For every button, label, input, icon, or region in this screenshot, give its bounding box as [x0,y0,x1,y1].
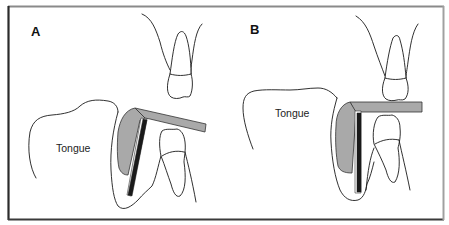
dental-film-placement-diagram: A Tongue B Tongue [0,0,449,225]
tongue-label-a: Tongue [56,142,91,154]
bite-block-b [350,102,422,112]
film-holder-pad-b [336,102,356,173]
film-b [357,113,361,192]
panel-a-label: A [31,24,41,39]
tongue-label-b: Tongue [275,107,310,119]
panel-b-label: B [250,22,259,37]
